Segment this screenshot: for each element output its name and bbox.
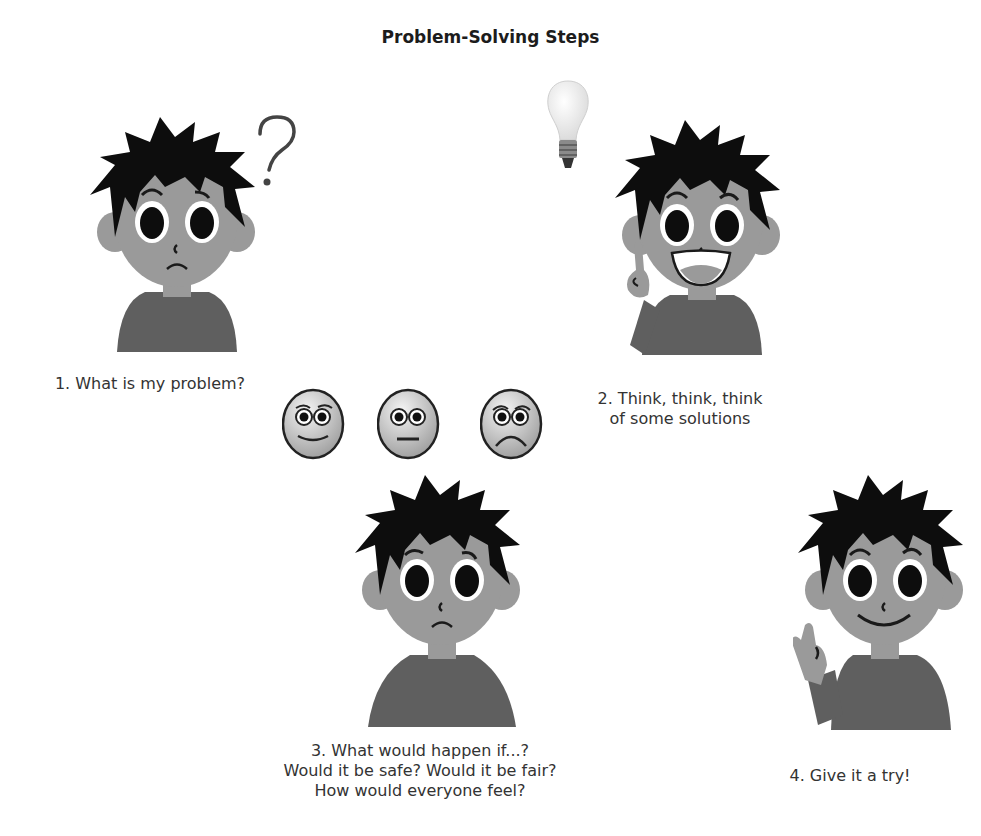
step-4-figure	[793, 470, 981, 730]
shirt	[368, 655, 516, 727]
sad-face-icon	[480, 388, 544, 460]
happy-face-icon	[282, 388, 346, 460]
shirt	[642, 295, 762, 355]
neutral-face-icon	[377, 388, 441, 460]
lightbulb-icon	[543, 78, 593, 178]
shirt	[831, 655, 951, 730]
step-1-caption: 1. What is my problem?	[20, 374, 280, 394]
step-4-caption: 4. Give it a try!	[750, 766, 950, 786]
shirt	[117, 292, 237, 352]
step-2-caption: 2. Think, think, think of some solutions	[560, 389, 800, 429]
question-mark-icon	[252, 112, 302, 187]
page-title: Problem-Solving Steps	[0, 27, 981, 47]
step-3-figure	[350, 470, 580, 730]
step-3-caption: 3. What would happen if...? Would it be …	[250, 741, 590, 801]
step-2-figure	[610, 115, 840, 355]
